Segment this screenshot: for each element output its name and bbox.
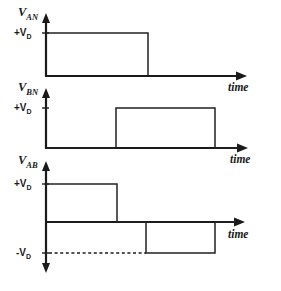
- vbn-time-label: time: [230, 153, 250, 165]
- vbn-signal-label: VBN: [18, 80, 39, 97]
- van-time-label: time: [228, 81, 248, 93]
- vab-waveform: [46, 184, 236, 253]
- panel-van: VAN +VD time: [14, 5, 248, 93]
- waveform-svg: VAN +VD time VBN +VD time VAB +VD -VD ti…: [0, 0, 281, 291]
- vbn-level-pos-label: +VD: [14, 102, 32, 115]
- van-level-pos-label: +VD: [14, 27, 32, 40]
- vab-level-neg-label: -VD: [16, 247, 31, 260]
- panel-vab: VAB +VD -VD time: [14, 153, 248, 273]
- van-signal-label: VAN: [18, 5, 39, 22]
- vab-y-axis-arrowhead-top: [42, 161, 50, 171]
- van-waveform: [46, 33, 148, 76]
- vab-level-pos-label: +VD: [14, 178, 32, 191]
- van-y-axis-arrowhead: [42, 13, 50, 23]
- panel-vbn: VBN +VD time: [14, 80, 250, 165]
- vbn-waveform: [46, 108, 239, 148]
- van-x-axis-arrowhead: [236, 72, 247, 81]
- waveform-figure: VAN +VD time VBN +VD time VAB +VD -VD ti…: [0, 0, 281, 291]
- vab-y-axis-arrowhead-bottom: [42, 263, 50, 273]
- vab-signal-label: VAB: [18, 153, 38, 170]
- vbn-y-axis-arrowhead: [42, 88, 50, 98]
- vab-time-label: time: [228, 228, 248, 240]
